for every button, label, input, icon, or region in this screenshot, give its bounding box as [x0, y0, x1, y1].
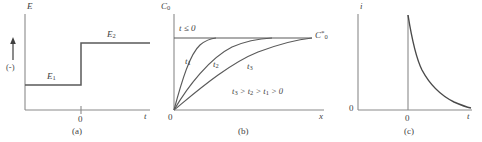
panel-b-curve-label-t3-sub: 3	[250, 64, 253, 71]
ineq-gt2: >	[253, 86, 263, 96]
panel-a-direction-arrow-head	[10, 37, 16, 44]
panel-b-curve-label-t2: t2	[213, 60, 219, 70]
panel-b-plateau-label: C*0	[315, 30, 328, 40]
panel-b-y-axis-label-sub: 0	[167, 4, 170, 11]
panel-a-zero-tick-label: 0	[78, 115, 83, 124]
panel-b-y-axis-label: C0	[161, 2, 170, 12]
panel-b-curve-label-t1: t1	[185, 57, 191, 67]
panel-c-zero-tick-label: 0	[405, 114, 410, 123]
panel-b-time-inequality: t3 > t2 > t1 > 0	[232, 87, 283, 97]
panel-b-curve-t3	[174, 38, 312, 110]
panel-a-label-e1-sub: 1	[53, 74, 56, 81]
panel-a-step-curve	[25, 43, 150, 85]
panel-b-curve-label-t1-sub: 1	[188, 59, 191, 66]
panel-a-label-e1: E1	[47, 72, 56, 82]
ineq-gt1: >	[238, 86, 248, 96]
three-panel-figure: E t 0 (-) E1 E2 (a) C0 x 0 t ≤ 0 C*0	[0, 0, 482, 142]
panel-a-caption: (a)	[72, 127, 82, 136]
panel-a-label-e2: E2	[107, 30, 116, 40]
panel-a-direction-note: (-)	[6, 63, 15, 72]
panel-c-x-axis-label: t	[467, 112, 470, 121]
panel-b-curve-label-t3: t3	[247, 62, 253, 72]
panel-b-concentration-profiles: C0 x 0 t ≤ 0 C*0 t1 t2 t3 t3 > t2 > t1 >…	[152, 0, 338, 142]
panel-a-potential-step: E t 0 (-) E1 E2 (a)	[0, 0, 160, 142]
panel-a-label-e2-sub: 2	[113, 32, 116, 39]
panel-c-y-axis-label: i	[360, 2, 363, 11]
ineq-gt-zero: > 0	[269, 86, 283, 96]
panel-b-curve-label-t2-sub: 2	[216, 62, 219, 69]
panel-b-zero-tick-label: 0	[168, 113, 173, 122]
panel-c-current-decay: i t 0 0 (c)	[334, 0, 482, 142]
panel-a-x-axis-label: t	[144, 112, 147, 121]
panel-c-caption: (c)	[404, 127, 414, 136]
panel-a-y-axis-label: E	[27, 2, 33, 11]
panel-b-caption: (b)	[238, 127, 249, 136]
panel-c-decay-curve	[408, 15, 471, 108]
panel-b-x-axis-label: x	[319, 112, 323, 121]
panel-b-initial-condition-label: t ≤ 0	[179, 24, 195, 33]
panel-c-y-zero-label: 0	[349, 104, 354, 113]
panel-b-curve-t2	[174, 38, 272, 110]
panel-b-plateau-label-sub: 0	[325, 33, 328, 40]
panel-b-plot-area	[152, 0, 338, 142]
